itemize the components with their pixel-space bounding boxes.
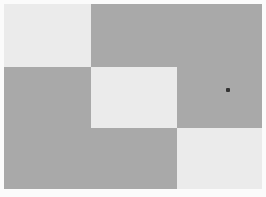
tile-middle-right xyxy=(177,67,262,128)
tile-center xyxy=(91,67,177,128)
cursor-icon xyxy=(226,88,230,92)
tile-bottom-left xyxy=(4,128,177,189)
tile-top-left xyxy=(4,4,91,67)
tile-top-right xyxy=(91,4,262,67)
pattern-canvas xyxy=(4,4,262,189)
tile-bottom-right xyxy=(177,128,262,189)
tile-middle-left xyxy=(4,67,91,128)
